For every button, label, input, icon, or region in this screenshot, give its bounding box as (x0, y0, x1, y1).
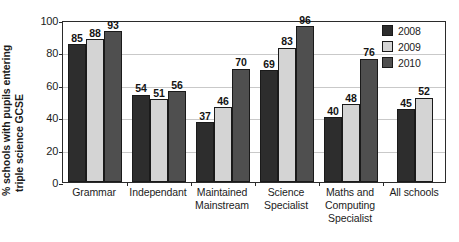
y-tick-label: 80 (32, 47, 58, 59)
bar-value-label: 76 (356, 46, 382, 58)
x-axis-tick-labels: GrammarIndependantMaintainedMainstreamSc… (62, 186, 446, 242)
bar (86, 39, 104, 182)
legend-item: 2009 (382, 39, 444, 54)
bar-value-label: 93 (100, 19, 126, 31)
bar (278, 48, 296, 182)
x-category-label: All schools (374, 186, 454, 199)
bar (360, 59, 378, 182)
bar (260, 70, 278, 182)
bar-value-label: 52 (411, 85, 437, 97)
bar (324, 117, 342, 182)
bar (296, 26, 314, 182)
y-tick-label: 40 (32, 112, 58, 124)
y-tick-mark (59, 22, 63, 23)
bar (342, 104, 360, 182)
legend-item: 2008 (382, 23, 444, 38)
x-category-label-line: Computing (310, 199, 390, 212)
bar (415, 98, 433, 182)
legend-label: 2009 (398, 41, 421, 53)
legend-item: 2010 (382, 55, 444, 70)
bar (168, 91, 186, 182)
bar (397, 109, 415, 182)
x-category-label-line: Specialist (310, 212, 390, 225)
x-category-label-line: All schools (374, 186, 454, 199)
legend-swatch-icon (382, 41, 393, 52)
y-tick-label: 20 (32, 145, 58, 157)
y-axis-label-line-2: triple science GCSE (13, 94, 25, 192)
y-axis-tick-labels: 100806040200 (30, 0, 58, 242)
legend-swatch-icon (382, 57, 393, 68)
bar (132, 95, 150, 182)
bar (232, 69, 250, 182)
bar (104, 31, 122, 182)
y-axis-label-line-1: % schools with pupils entering (0, 45, 12, 196)
bar (214, 107, 232, 182)
bar-value-label: 70 (228, 56, 254, 68)
legend-label: 2008 (398, 25, 421, 37)
legend-label: 2010 (398, 57, 421, 69)
bar-value-label: 56 (164, 79, 190, 91)
y-tick-label: 60 (32, 80, 58, 92)
bar (196, 122, 214, 182)
bar (150, 99, 168, 182)
bar-chart-figure: % schools with pupils entering triple sc… (0, 0, 459, 242)
chart-legend: 200820092010 (382, 23, 444, 71)
y-axis-label: % schools with pupils entering triple sc… (0, 0, 34, 200)
legend-swatch-icon (382, 25, 393, 36)
y-tick-mark (59, 184, 63, 185)
y-tick-label: 100 (32, 15, 58, 27)
bar (68, 44, 86, 182)
bar-value-label: 96 (292, 14, 318, 26)
